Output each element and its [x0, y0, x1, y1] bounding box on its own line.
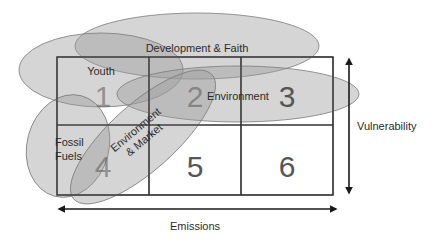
cell-number-6: 6 — [279, 150, 296, 183]
label-youth: Youth — [87, 65, 115, 77]
cell-number-2: 2 — [187, 80, 204, 113]
cell-number-1: 1 — [95, 80, 112, 113]
cell-number-3: 3 — [279, 80, 296, 113]
emissions-label: Emissions — [170, 220, 221, 232]
vulnerability-label: Vulnerability — [357, 120, 417, 132]
diagram-canvas: 1 2 3 4 5 6 Development & Faith Youth En… — [0, 0, 434, 243]
label-fossil-fuels-line1: Fossil — [55, 136, 84, 148]
label-development-faith: Development & Faith — [146, 42, 249, 54]
cell-number-5: 5 — [187, 150, 204, 183]
label-fossil-fuels-line2: Fuels — [55, 150, 82, 162]
label-environment: Environment — [207, 90, 269, 102]
cell-number-4: 4 — [95, 150, 112, 183]
